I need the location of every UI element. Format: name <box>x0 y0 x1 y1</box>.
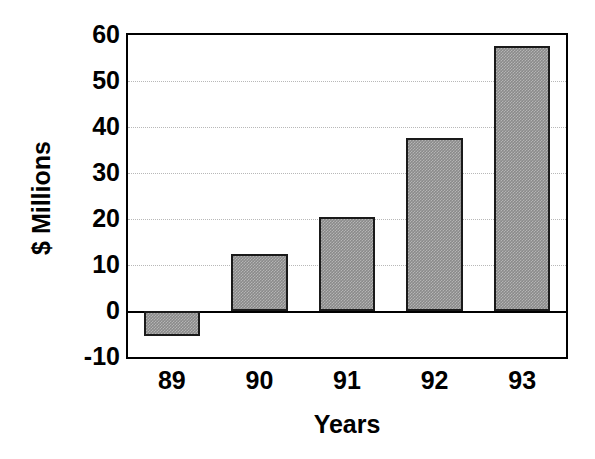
bar <box>319 217 376 311</box>
bar-chart: $ Millions 6050403020100-10 8990919293 Y… <box>0 0 595 459</box>
x-axis-title: Years <box>126 412 568 437</box>
bar <box>494 46 551 311</box>
plot-area <box>126 33 568 359</box>
x-axis-tick-labels: 8990919293 <box>126 368 568 404</box>
bar <box>144 311 201 336</box>
y-tick-label: 40 <box>50 114 120 139</box>
y-tick-label: 10 <box>50 252 120 277</box>
x-tick-label: 90 <box>219 368 299 393</box>
x-tick-label: 89 <box>132 368 212 393</box>
x-tick-label: 92 <box>395 368 475 393</box>
bar <box>231 254 288 312</box>
y-tick-label: 60 <box>50 22 120 47</box>
x-tick-label: 91 <box>307 368 387 393</box>
y-tick-label: 20 <box>50 206 120 231</box>
y-tick-label: 30 <box>50 160 120 185</box>
x-tick-label: 93 <box>482 368 562 393</box>
y-tick-label: -10 <box>50 344 120 369</box>
y-tick-label: 0 <box>50 298 120 323</box>
bar <box>406 138 463 311</box>
y-axis-tick-labels: 6050403020100-10 <box>40 0 120 459</box>
y-tick-label: 50 <box>50 68 120 93</box>
